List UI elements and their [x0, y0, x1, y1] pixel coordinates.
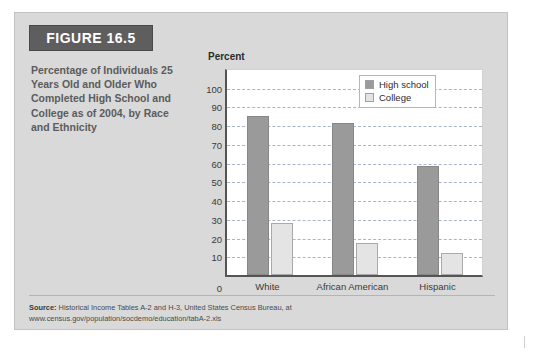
- y-axis-tick-label: 60: [211, 158, 222, 169]
- x-axis-tick-label: Hispanic: [378, 281, 498, 292]
- gridline: [227, 89, 482, 90]
- bar-high-school-african-american: [332, 123, 354, 275]
- y-axis-tick-label: 20: [211, 233, 222, 244]
- bar-college-african-american: [356, 243, 378, 275]
- bar-high-school-white: [247, 116, 269, 275]
- legend-item-label: College: [379, 92, 411, 103]
- bar-college-white: [271, 223, 293, 275]
- gridline: [227, 107, 482, 108]
- chart-legend: High schoolCollege: [359, 75, 436, 108]
- y-axis-tick-label: 90: [211, 102, 222, 113]
- legend-swatch-icon: [365, 80, 374, 89]
- source-label: Source:: [29, 303, 57, 312]
- source-text: Historical Income Tables A-2 and H-3, Un…: [57, 303, 292, 312]
- y-axis-tick-label: 100: [206, 83, 222, 94]
- source-divider: [29, 295, 495, 296]
- y-axis-tick-label: 70: [211, 139, 222, 150]
- legend-item: High school: [365, 79, 429, 90]
- bar-college-hispanic: [441, 253, 463, 275]
- y-axis-tick-label: 80: [211, 121, 222, 132]
- page-edge-mark: [524, 336, 525, 348]
- legend-item: College: [365, 92, 429, 103]
- source-note: Source: Historical Income Tables A-2 and…: [29, 302, 489, 324]
- y-axis-tick-label: 40: [211, 196, 222, 207]
- figure-page: FIGURE 16.5 Percentage of Individuals 25…: [0, 0, 533, 358]
- figure-number-label: FIGURE 16.5: [46, 30, 136, 46]
- y-axis-tick-label: 10: [211, 252, 222, 263]
- plot-area: 0102030405060708090100: [225, 69, 483, 277]
- bar-high-school-hispanic: [417, 166, 439, 275]
- legend-item-label: High school: [379, 79, 429, 90]
- figure-number-banner: FIGURE 16.5: [29, 25, 153, 51]
- y-axis-tick-label: 30: [211, 214, 222, 225]
- plot-inner: 0102030405060708090100: [227, 70, 482, 275]
- legend-swatch-icon: [365, 93, 374, 102]
- y-axis-tick-label: 50: [211, 177, 222, 188]
- figure-card: FIGURE 16.5 Percentage of Individuals 25…: [14, 12, 508, 330]
- chart-plate: Percent 0102030405060708090100 WhiteAfri…: [191, 47, 499, 301]
- y-axis-title: Percent: [208, 51, 245, 62]
- source-url: www.census.gov/population/socdemo/educat…: [29, 314, 221, 323]
- figure-caption: Percentage of Individuals 25 Years Old a…: [31, 63, 173, 134]
